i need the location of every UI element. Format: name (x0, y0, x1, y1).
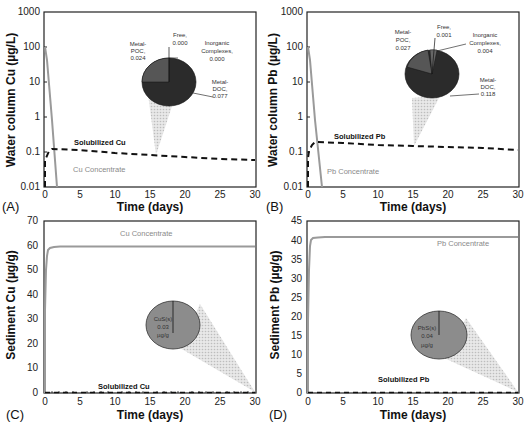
inset-pie (146, 301, 200, 349)
x-tick: 15 (407, 396, 419, 407)
panel-d: 0 5 10 15 20 25 30 35 40 45 0 5 10 15 20… (268, 215, 524, 422)
panel-a: 0.01 0.1 1 10 100 1000 0 5 10 15 20 25 3… (2, 6, 261, 214)
x-tick: 0 (42, 396, 48, 407)
panel-label: (D) (269, 407, 287, 422)
svg-text:Metal-: Metal- (395, 29, 412, 35)
y-tick: 10 (27, 362, 39, 373)
x-tick: 30 (512, 189, 524, 200)
inset-pie (405, 38, 479, 98)
x-tick: 15 (144, 396, 156, 407)
y-axis-label: Sediment Pb (µg/g) (268, 251, 282, 360)
solubilized-label: Solubilized Pb (334, 132, 386, 141)
svg-text:0.000: 0.000 (209, 56, 225, 62)
series-solubilized-pb (308, 142, 518, 187)
x-tick: 0 (42, 189, 48, 200)
x-axis-ticks: 0 5 10 15 20 25 30 (42, 396, 261, 407)
svg-text:0.024: 0.024 (130, 55, 146, 61)
y-axis-label: Sediment Cu (µg/g) (4, 250, 18, 360)
x-axis-label: Time (days) (380, 200, 446, 214)
y-axis-ticks: 0 5 10 15 20 25 30 35 40 45 (291, 215, 303, 398)
svg-text:Free,: Free, (437, 24, 451, 30)
x-tick: 5 (77, 396, 83, 407)
svg-text:Inorganic: Inorganic (205, 40, 230, 46)
x-tick: 30 (249, 189, 261, 200)
y-tick: 25 (291, 292, 303, 303)
y-tick: 0.1 (26, 146, 40, 157)
y-tick: 50 (27, 264, 39, 275)
svg-text:0.077: 0.077 (212, 93, 228, 99)
y-tick: 45 (291, 215, 303, 226)
y-axis-ticks: 0.01 0.1 1 10 100 1000 (18, 6, 41, 192)
x-axis-label: Time (days) (117, 408, 183, 422)
inset-pie (411, 311, 467, 359)
svg-text:Metal-: Metal- (480, 77, 497, 83)
svg-text:POC,: POC, (131, 48, 146, 54)
x-tick: 25 (214, 396, 226, 407)
svg-text:DOC,: DOC, (481, 84, 496, 90)
x-tick: 20 (442, 396, 454, 407)
y-axis-ticks: 0.01 0.1 1 10 100 1000 (281, 6, 304, 192)
figure: 0.01 0.1 1 10 100 1000 0 5 10 15 20 25 3… (0, 0, 529, 433)
y-tick: 10 (292, 76, 304, 87)
y-tick: 0.1 (289, 146, 303, 157)
x-axis-ticks: 0 5 10 15 20 25 30 (42, 189, 261, 200)
panel-label: (A) (2, 199, 19, 214)
x-axis-ticks: 0 5 10 15 20 25 30 (305, 396, 524, 407)
y-tick: 30 (27, 313, 39, 324)
svg-text:0.118: 0.118 (481, 91, 496, 97)
solubilized-label: Solubilized Pb (378, 375, 430, 384)
svg-text:Inorganic: Inorganic (473, 32, 498, 38)
x-axis-ticks: 0 5 10 15 20 25 30 (305, 189, 524, 200)
concentrate-label: Pb Concentrate (437, 239, 489, 248)
x-tick: 25 (477, 189, 489, 200)
x-tick: 25 (477, 396, 489, 407)
svg-text:Metal-: Metal- (212, 79, 229, 85)
solubilized-label: Solubilized Cu (98, 382, 150, 391)
x-tick: 30 (512, 396, 524, 407)
inset-cone (412, 96, 440, 146)
y-tick: 40 (291, 235, 303, 246)
y-tick: 20 (291, 311, 303, 322)
y-tick: 1000 (18, 6, 41, 17)
svg-text:0.027: 0.027 (395, 45, 411, 51)
x-tick: 0 (305, 189, 311, 200)
x-tick: 25 (214, 189, 226, 200)
x-tick: 5 (77, 189, 83, 200)
svg-text:0.000: 0.000 (172, 40, 188, 46)
svg-text:0.03: 0.03 (157, 324, 169, 330)
svg-text:Free,: Free, (173, 32, 187, 38)
x-tick: 15 (407, 189, 419, 200)
y-tick: 5 (296, 368, 302, 379)
svg-text:Complexes,: Complexes, (469, 40, 501, 46)
x-tick: 20 (179, 189, 191, 200)
x-axis-label: Time (days) (380, 408, 446, 422)
y-tick: 20 (27, 338, 39, 349)
svg-text:0.004: 0.004 (477, 48, 493, 54)
y-tick: 60 (27, 240, 39, 251)
y-tick: 0.01 (21, 181, 41, 192)
svg-text:PbS(s): PbS(s) (418, 325, 436, 331)
svg-text:Metal-: Metal- (130, 41, 147, 47)
svg-text:µg/g: µg/g (421, 342, 433, 348)
x-tick: 0 (305, 396, 311, 407)
series-pb-concentrate (308, 47, 322, 187)
x-tick: 20 (179, 396, 191, 407)
y-tick: 1 (297, 111, 303, 122)
y-tick: 1000 (281, 6, 304, 17)
x-tick: 10 (109, 396, 121, 407)
y-tick: 0 (296, 387, 302, 398)
x-tick: 5 (340, 189, 346, 200)
y-tick: 0 (32, 387, 38, 398)
x-tick: 15 (144, 189, 156, 200)
svg-text:0.04: 0.04 (421, 333, 433, 339)
x-tick: 30 (249, 396, 261, 407)
concentrate-label: Pb Concentrate (327, 167, 379, 176)
concentrate-label: Cu Concentrate (120, 229, 173, 238)
y-tick: 100 (286, 41, 303, 52)
y-tick: 0.01 (284, 181, 304, 192)
panel-c: 0 10 20 30 40 50 60 70 0 5 10 15 20 25 3… (4, 215, 261, 422)
y-tick: 10 (29, 76, 41, 87)
y-axis-label: Water column Cu (µg/L) (4, 33, 18, 167)
y-tick: 10 (291, 349, 303, 360)
inset-pie (142, 47, 213, 106)
